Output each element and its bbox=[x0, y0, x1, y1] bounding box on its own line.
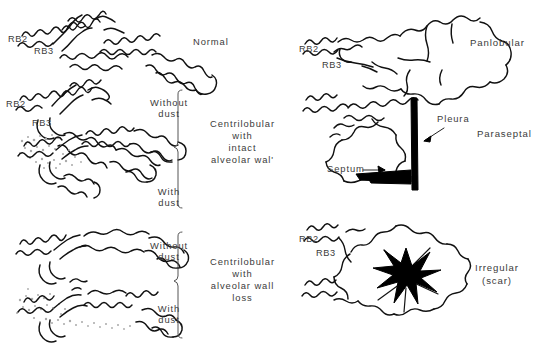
label-with-dust-2-line2: dust bbox=[145, 314, 193, 326]
label-without-dust-1-line2: dust bbox=[145, 108, 193, 120]
label-irregular-line1: Irregular bbox=[458, 262, 536, 274]
label-centrilobular-loss-line1: Centrilobular bbox=[190, 256, 295, 268]
label-paraseptal: Paraseptal bbox=[477, 128, 532, 140]
label-centrilobular-intact-line2: with bbox=[190, 130, 295, 142]
label-rb2-normal: RB2 bbox=[8, 34, 28, 46]
label-panlobular: Panlobular bbox=[470, 37, 525, 49]
group-braces bbox=[174, 90, 182, 338]
label-rb2-panlobular: RB2 bbox=[299, 44, 319, 56]
label-centrilobular-intact-line4: alveolar wal' bbox=[190, 154, 295, 166]
label-centrilobular-loss-line4: loss bbox=[190, 292, 295, 304]
pleura-band bbox=[411, 98, 418, 190]
label-with-dust-1-line1: With bbox=[145, 186, 193, 198]
label-normal: Normal bbox=[193, 36, 229, 48]
label-rb3-irregular: RB3 bbox=[316, 248, 336, 260]
label-rb3-centri-intact: RB3 bbox=[32, 118, 52, 130]
label-septum: Septum bbox=[327, 163, 365, 175]
label-with-dust-2-line1: With bbox=[145, 303, 193, 315]
label-centrilobular-loss-line3: alveolar wall bbox=[190, 280, 295, 292]
label-rb3-normal: RB3 bbox=[34, 46, 54, 58]
label-pleura: Pleura bbox=[437, 113, 470, 125]
label-without-dust-2-line2: dust bbox=[145, 251, 193, 263]
dust-stipple-loss bbox=[16, 288, 131, 330]
emphysema-diagram: RB2 RB3 RB2 RB3 RB2 RB3 RB2 RB3 Normal W… bbox=[0, 0, 541, 348]
panel-paraseptal-drawing bbox=[303, 94, 418, 190]
label-with-dust-1-line2: dust bbox=[145, 197, 193, 209]
label-centrilobular-intact-line1: Centrilobular bbox=[190, 118, 295, 130]
label-rb2-centri-intact: RB2 bbox=[6, 99, 26, 111]
label-without-dust-1-line1: Without bbox=[145, 97, 193, 109]
label-rb3-panlobular: RB3 bbox=[322, 60, 342, 72]
label-without-dust-2-line1: Without bbox=[145, 240, 193, 252]
label-rb2-irregular: RB2 bbox=[299, 234, 319, 246]
label-centrilobular-loss-line2: with bbox=[190, 268, 295, 280]
label-irregular-line2: (scar) bbox=[458, 275, 536, 287]
panel-irregular-scar-drawing bbox=[302, 224, 471, 315]
label-centrilobular-intact-line3: intact bbox=[190, 142, 295, 154]
